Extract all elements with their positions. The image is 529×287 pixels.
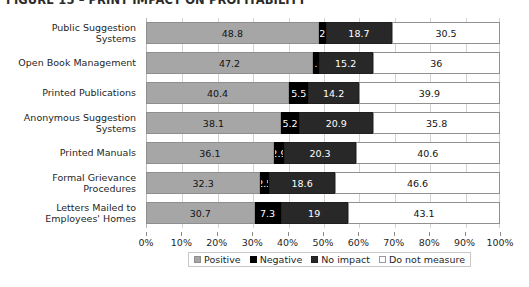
legend-label: Do not measure bbox=[389, 254, 465, 265]
legend-item-donotmeasure[interactable]: Do not measure bbox=[379, 254, 465, 265]
bar-value-label: 46.6 bbox=[407, 178, 428, 189]
figure-title: FIGURE 15 – PRINT IMPACT ON PROFITABILIT… bbox=[6, 0, 406, 7]
bar-segment-no-impact: 14.2 bbox=[308, 82, 358, 104]
bar-value-label: 2 bbox=[319, 28, 325, 39]
x-tick-mark bbox=[288, 232, 289, 236]
bar-value-label: 5.5 bbox=[291, 88, 306, 99]
bar-segment-no-impact: 20.3 bbox=[284, 142, 356, 164]
bar-value-label: 36.1 bbox=[199, 148, 220, 159]
bar-value-label: 19 bbox=[308, 208, 320, 219]
legend-swatch-icon bbox=[250, 256, 257, 263]
bar-segment-no-impact: 18.6 bbox=[269, 172, 335, 194]
stacked-bar: 40.45.514.239.9 bbox=[146, 82, 500, 104]
bar-segment-positive: 47.2 bbox=[146, 52, 313, 74]
bar-segment-do-not-measure: 43.1 bbox=[348, 202, 501, 224]
bar-value-label: 20.3 bbox=[309, 148, 330, 159]
legend-item-positive[interactable]: Positive bbox=[194, 254, 241, 265]
bar-segment-no-impact: 19 bbox=[281, 202, 348, 224]
chart-rows: Public SuggestionSystems48.8218.730.5Ope… bbox=[0, 18, 529, 228]
stacked-bar: 36.12.920.340.6 bbox=[146, 142, 500, 164]
bar-segment-negative: 5.5 bbox=[289, 82, 308, 104]
bar-segment-positive: 32.3 bbox=[146, 172, 260, 194]
category-label: Anonymous SuggestionSystems bbox=[0, 108, 140, 138]
bar-value-label: 18.7 bbox=[348, 28, 369, 39]
bar-segment-no-impact: 20.9 bbox=[299, 112, 373, 134]
legend-label: No impact bbox=[321, 254, 370, 265]
category-label: Formal GrievanceProcedures bbox=[0, 168, 140, 198]
x-tick-mark bbox=[429, 232, 430, 236]
category-label: Printed Manuals bbox=[0, 138, 140, 168]
stacked-bar: 32.32.518.646.6 bbox=[146, 172, 500, 194]
category-label: Open Book Management bbox=[0, 48, 140, 78]
bar-segment-positive: 36.1 bbox=[146, 142, 274, 164]
legend-swatch-icon bbox=[311, 256, 318, 263]
category-label: Public SuggestionSystems bbox=[0, 18, 140, 48]
bar-value-label: 48.8 bbox=[222, 28, 243, 39]
bar-segment-negative: 5.2 bbox=[281, 112, 299, 134]
stacked-bar: 30.77.31943.1 bbox=[146, 202, 500, 224]
bar-segment-do-not-measure: 46.6 bbox=[335, 172, 500, 194]
legend-swatch-icon bbox=[194, 256, 201, 263]
bar-value-label: 39.9 bbox=[419, 88, 440, 99]
bar-value-label: 30.7 bbox=[190, 208, 211, 219]
bar-value-label: 32.3 bbox=[193, 178, 214, 189]
bar-segment-negative: 2.5 bbox=[260, 172, 269, 194]
x-tick-label: 100% bbox=[478, 237, 522, 248]
bar-segment-positive: 38.1 bbox=[146, 112, 281, 134]
legend-label: Positive bbox=[204, 254, 241, 265]
x-tick-mark bbox=[394, 232, 395, 236]
bar-value-label: 47.2 bbox=[219, 58, 240, 69]
stacked-bar: 38.15.220.935.8 bbox=[146, 112, 500, 134]
category-label: Printed Publications bbox=[0, 78, 140, 108]
chart-legend: PositiveNegativeNo impactDo not measure bbox=[188, 252, 471, 267]
chart-row: Anonymous SuggestionSystems38.15.220.935… bbox=[0, 108, 529, 138]
chart-row: Printed Manuals36.12.920.340.6 bbox=[0, 138, 529, 168]
bar-segment-do-not-measure: 36 bbox=[373, 52, 500, 74]
bar-segment-negative: 2 bbox=[319, 22, 326, 44]
chart-row: Printed Publications40.45.514.239.9 bbox=[0, 78, 529, 108]
bar-segment-negative: 2.9 bbox=[274, 142, 284, 164]
bar-value-label: 40.4 bbox=[207, 88, 228, 99]
bar-segment-no-impact: 15.2 bbox=[319, 52, 373, 74]
chart-row: Open Book Management47.21.615.236 bbox=[0, 48, 529, 78]
x-tick-mark bbox=[252, 232, 253, 236]
legend-swatch-icon bbox=[379, 256, 386, 263]
bar-segment-do-not-measure: 40.6 bbox=[356, 142, 500, 164]
bar-segment-do-not-measure: 35.8 bbox=[373, 112, 500, 134]
x-tick-mark bbox=[146, 232, 147, 236]
bar-value-label: 2.9 bbox=[274, 148, 284, 159]
bar-value-label: 43.1 bbox=[413, 208, 434, 219]
bar-value-label: 40.6 bbox=[417, 148, 438, 159]
x-tick-mark bbox=[323, 232, 324, 236]
bar-segment-positive: 30.7 bbox=[146, 202, 255, 224]
chart-row: Formal GrievanceProcedures32.32.518.646.… bbox=[0, 168, 529, 198]
x-axis: 0%10%20%30%40%50%60%70%80%90%100% bbox=[146, 232, 500, 254]
bar-segment-do-not-measure: 39.9 bbox=[359, 82, 500, 104]
x-tick-mark bbox=[358, 232, 359, 236]
chart-row: Letters Mailed toEmployees' Homes30.77.3… bbox=[0, 198, 529, 228]
stacked-bar: 48.8218.730.5 bbox=[146, 22, 500, 44]
legend-label: Negative bbox=[260, 254, 303, 265]
legend-item-negative[interactable]: Negative bbox=[250, 254, 303, 265]
x-tick-mark bbox=[217, 232, 218, 236]
bar-segment-no-impact: 18.7 bbox=[326, 22, 392, 44]
bar-value-label: 7.3 bbox=[260, 208, 275, 219]
figure-root: FIGURE 15 – PRINT IMPACT ON PROFITABILIT… bbox=[0, 0, 529, 287]
bar-value-label: 38.1 bbox=[203, 118, 224, 129]
bar-value-label: 18.6 bbox=[292, 178, 313, 189]
bar-segment-negative: 7.3 bbox=[255, 202, 281, 224]
bar-segment-do-not-measure: 30.5 bbox=[392, 22, 500, 44]
bar-value-label: 5.2 bbox=[283, 118, 298, 129]
bar-value-label: 20.9 bbox=[326, 118, 347, 129]
x-tick-mark bbox=[500, 232, 501, 236]
bar-value-label: 14.2 bbox=[323, 88, 344, 99]
category-label: Letters Mailed toEmployees' Homes bbox=[0, 198, 140, 228]
bar-value-label: 35.8 bbox=[426, 118, 447, 129]
x-tick-mark bbox=[181, 232, 182, 236]
bar-value-label: 30.5 bbox=[435, 28, 456, 39]
bar-value-label: 15.2 bbox=[335, 58, 356, 69]
chart-row: Public SuggestionSystems48.8218.730.5 bbox=[0, 18, 529, 48]
bar-value-label: 2.5 bbox=[260, 178, 269, 189]
bar-value-label: 36 bbox=[430, 58, 442, 69]
legend-item-noimpact[interactable]: No impact bbox=[311, 254, 370, 265]
